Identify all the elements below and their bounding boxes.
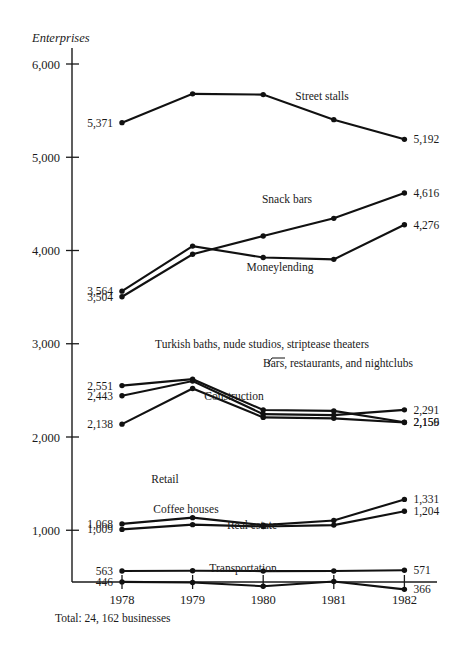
y-tick-label: 2,000 [32, 431, 60, 445]
series-annotation-label: Retail [151, 473, 178, 485]
data-point-marker [402, 137, 407, 142]
data-point-marker [331, 117, 336, 122]
data-point-marker [119, 393, 124, 398]
start-value-label: 2,138 [87, 418, 113, 431]
data-point-marker [119, 120, 124, 125]
data-point-marker [119, 521, 124, 526]
series-annotation-label: Turkish baths, nude studios, striptease … [155, 338, 369, 351]
line-chart: Enterprises 1,0002,0003,0004,0005,0006,0… [0, 0, 451, 646]
data-point-marker [119, 579, 124, 584]
data-point-marker [190, 252, 195, 257]
data-point-marker [190, 515, 195, 520]
data-point-marker [402, 420, 407, 425]
y-tick-label: 3,000 [32, 337, 60, 351]
data-point-marker [331, 416, 336, 421]
series-annotation-label: Construction [204, 390, 264, 402]
series-annotation-label: Moneylending [246, 261, 313, 274]
data-point-marker [402, 587, 407, 592]
end-value-label: 2,291 [413, 404, 439, 417]
start-value-label: 5,371 [87, 117, 113, 130]
data-point-marker [119, 527, 124, 532]
data-point-marker [190, 522, 195, 527]
data-point-marker [190, 580, 195, 585]
y-tick-label: 5,000 [32, 151, 60, 165]
chart-canvas: Enterprises 1,0002,0003,0004,0005,0006,0… [0, 0, 451, 646]
axis-title-group: Enterprises [31, 31, 90, 45]
series-line [122, 94, 404, 140]
data-point-marker [402, 222, 407, 227]
data-point-marker [119, 383, 124, 388]
data-point-marker [261, 92, 266, 97]
end-value-label: 571 [413, 564, 431, 576]
data-point-marker [190, 243, 195, 248]
start-value-label: 2,443 [87, 390, 113, 403]
data-point-marker [331, 522, 336, 527]
series-annotation-label: Transportation [209, 562, 277, 575]
y-tick-label: 4,000 [32, 244, 60, 258]
data-point-marker [402, 497, 407, 502]
data-point-marker [261, 415, 266, 420]
series-annotation-label: Bars, restaurants, and nightclubs [263, 357, 413, 370]
data-point-marker [190, 378, 195, 383]
x-tick-label: 1980 [251, 593, 276, 607]
end-value-label: 1,204 [413, 505, 439, 518]
chart-footnote: Total: 24, 162 businesses [55, 612, 171, 625]
data-point-marker [331, 579, 336, 584]
data-point-marker [119, 568, 124, 573]
y-axis-title: Enterprises [31, 31, 90, 45]
series-annotation-label: Real estate [227, 519, 277, 531]
data-point-marker [119, 421, 124, 426]
data-point-marker [331, 216, 336, 221]
data-point-marker [190, 568, 195, 573]
data-point-marker [190, 386, 195, 391]
annotation-group: Street stallsSnack barsMoneylendingTurki… [151, 90, 413, 575]
end-value-label: 4,276 [413, 219, 439, 232]
data-point-marker [119, 294, 124, 299]
end-value-label: 4,616 [413, 187, 439, 200]
data-point-marker [119, 288, 124, 293]
start-value-label: 3,564 [87, 285, 113, 298]
data-point-marker [331, 518, 336, 523]
series-annotation-label: Coffee houses [153, 503, 219, 515]
data-point-marker [402, 407, 407, 412]
data-point-marker [331, 257, 336, 262]
x-tick-label: 1981 [321, 593, 346, 607]
y-tick-label: 6,000 [32, 58, 60, 72]
x-tick-label: 1978 [110, 593, 135, 607]
end-value-label: 366 [413, 583, 431, 595]
data-point-marker [402, 568, 407, 573]
data-point-marker [190, 91, 195, 96]
y-tick-label: 1,000 [32, 524, 60, 538]
data-point-marker [261, 233, 266, 238]
data-point-marker [402, 509, 407, 514]
series-annotation-label: Snack bars [262, 193, 313, 205]
x-tick-group: 19781979198019811982 [110, 575, 417, 607]
data-point-marker [402, 190, 407, 195]
data-point-marker [261, 255, 266, 260]
end-value-label: 2,156 [413, 416, 439, 429]
x-tick-label: 1979 [180, 593, 205, 607]
end-value-label: 5,192 [413, 133, 439, 146]
start-value-label: 1,009 [87, 523, 113, 536]
data-point-marker [261, 584, 266, 589]
series-annotation-label: Street stalls [295, 90, 349, 102]
data-point-marker [331, 568, 336, 573]
start-value-label: 446 [96, 576, 114, 588]
